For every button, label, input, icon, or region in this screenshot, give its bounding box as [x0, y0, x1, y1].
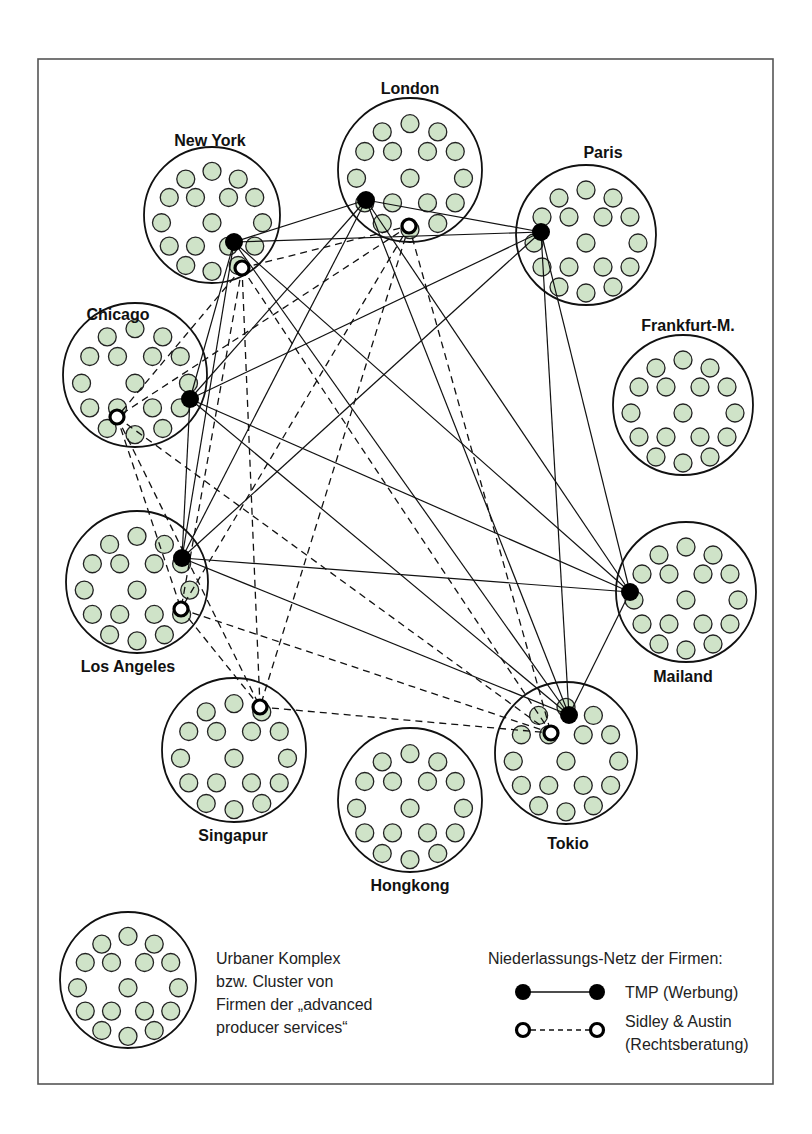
firm-icon [574, 726, 592, 744]
firm-icon [119, 1027, 137, 1045]
firm-icon [356, 772, 374, 790]
sa-hub-chicago [110, 410, 124, 424]
firm-icon [197, 794, 215, 812]
firm-icon [270, 722, 288, 740]
firm-icon [610, 752, 628, 770]
firm-icon [93, 1022, 111, 1040]
firm-icon [83, 605, 101, 623]
firm-icon [197, 703, 215, 721]
firm-icon [512, 776, 530, 794]
firm-icon [650, 546, 668, 564]
firm-icon [418, 194, 436, 212]
firm-icon [726, 404, 744, 422]
legend-sa-hub-icon [591, 1024, 604, 1037]
city-label-new-york: New York [174, 132, 246, 149]
sidley-austin-network-edges [117, 226, 551, 733]
firm-icon [701, 448, 719, 466]
city-label-tokio: Tokio [547, 835, 589, 852]
firm-icon [694, 615, 712, 633]
firm-icon [136, 954, 154, 972]
firm-icon [721, 565, 739, 583]
firm-icon [145, 1022, 163, 1040]
firm-icon [401, 851, 419, 869]
firm-icon [429, 753, 447, 771]
legend-sa-hub-icon [517, 1024, 530, 1037]
city-label-chicago: Chicago [86, 306, 149, 323]
firm-icon [418, 772, 436, 790]
firm-icon [530, 706, 548, 724]
firm-icon [143, 347, 161, 365]
firm-icon [584, 797, 602, 815]
firm-icon [429, 214, 447, 232]
firm-icon [718, 378, 736, 396]
firm-icon [242, 722, 260, 740]
firm-icon [102, 1002, 120, 1020]
firm-icon [401, 115, 419, 133]
firm-icon [229, 170, 247, 188]
firm-icon [101, 535, 119, 553]
firm-icon [128, 527, 146, 545]
firm-icon [629, 234, 647, 252]
firm-icon [225, 801, 243, 819]
legend-cluster-text-4: producer services“ [216, 1019, 348, 1036]
firm-icon [550, 189, 568, 207]
tmp-edge-paris-los-angeles [182, 232, 541, 558]
firm-icon [674, 454, 692, 472]
tmp-hub-chicago [181, 390, 199, 408]
firm-icon [348, 169, 366, 187]
firm-icon [560, 258, 578, 276]
firm-icon [677, 591, 695, 609]
firm-icon [254, 214, 272, 232]
tmp-hub-los-angeles [173, 549, 191, 567]
firm-icon [384, 142, 402, 160]
firm-icon [145, 555, 163, 573]
firm-icon [446, 142, 464, 160]
city-label-paris: Paris [583, 144, 622, 161]
firm-icon [633, 565, 651, 583]
firm-icon [111, 605, 129, 623]
firm-icon [102, 954, 120, 972]
firm-icon [246, 189, 264, 207]
firm-icon [657, 428, 675, 446]
firm-icon [208, 774, 226, 792]
legend-tmp-label: TMP (Werbung) [625, 984, 738, 1001]
firm-icon [577, 234, 595, 252]
firm-icon [278, 749, 296, 767]
firm-icon [154, 328, 172, 346]
firm-icon [446, 194, 464, 212]
firm-icon [577, 284, 595, 302]
city-label-hongkong: Hongkong [370, 877, 449, 894]
firm-icon [384, 824, 402, 842]
firm-icon [418, 824, 436, 842]
firm-icon [246, 237, 264, 255]
firm-icon [155, 535, 173, 553]
tmp-edge-paris-tokio [541, 232, 569, 715]
firm-icon [512, 726, 530, 744]
cluster-mailand: Mailand [616, 522, 756, 685]
firm-icon [674, 404, 692, 422]
firm-icon [729, 591, 747, 609]
tmp-hub-mailand [621, 583, 639, 601]
firm-icon [540, 776, 558, 794]
firm-icon [143, 399, 161, 417]
firm-icon [721, 615, 739, 633]
firm-icon [162, 954, 180, 972]
firm-icon [704, 635, 722, 653]
firm-icon [186, 237, 204, 255]
firm-icon [220, 189, 238, 207]
sidley_austin-edge-new-york-tokio [242, 268, 551, 733]
firm-icon [557, 752, 575, 770]
firm-icon [98, 328, 116, 346]
cluster-los-angeles: Los Angeles [66, 511, 208, 675]
firm-icon [177, 170, 195, 188]
firm-icon [154, 419, 172, 437]
city-label-mailand: Mailand [653, 668, 713, 685]
firm-icon [162, 1002, 180, 1020]
cluster-singapur: Singapur [162, 678, 306, 844]
firm-icon [384, 194, 402, 212]
firm-icon [418, 142, 436, 160]
firm-icon [660, 565, 678, 583]
firm-icon [177, 257, 195, 275]
firm-icon [633, 615, 651, 633]
tmp-hub-new-york [225, 233, 243, 251]
